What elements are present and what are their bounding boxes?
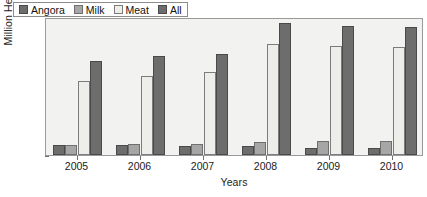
bar-milk-2010 [380,141,392,155]
bar-milk-2008 [254,142,266,155]
legend-label: Meat [126,4,149,16]
x-axis-tick-label: 2009 [298,160,360,172]
chart-figure: Million Head 00.51.01.52.02.53.03.54.0 2… [0,0,427,197]
bar-milk-2006 [128,144,140,155]
x-axis-tick-mark [392,156,393,160]
bar-all-2010 [405,27,417,155]
legend-item-milk: Milk [74,4,105,16]
bar-angora-2005 [53,145,65,155]
x-axis-tick-label: 2005 [46,160,108,172]
legend-label: All [170,4,182,16]
bar-angora-2009 [305,148,317,155]
legend-swatch-icon [158,5,167,14]
bar-angora-2010 [368,148,380,155]
x-axis-tick-mark [329,156,330,160]
bar-meat-2009 [330,46,342,155]
legend-item-all: All [158,4,182,16]
legend-label: Angora [31,4,65,16]
x-axis-title: Years [45,176,423,188]
legend-swatch-icon [74,5,83,14]
bar-all-2008 [279,23,291,155]
bar-all-2006 [153,56,165,155]
chart-legend: AngoraMilkMeatAll [13,2,188,17]
bar-angora-2006 [116,145,128,155]
x-axis-tick-label: 2007 [172,160,234,172]
bar-all-2009 [342,26,354,155]
bar-series-container [46,19,422,155]
bar-milk-2005 [65,145,77,155]
bar-all-2005 [90,61,102,155]
legend-item-meat: Meat [114,4,149,16]
bar-meat-2005 [78,81,90,155]
x-axis-tick-mark [77,156,78,160]
bar-angora-2008 [242,146,254,155]
bar-all-2007 [216,54,228,155]
x-axis-tick-mark [140,156,141,160]
x-axis-tick-mark [203,156,204,160]
x-axis-tick-label: 2008 [235,160,297,172]
bar-milk-2007 [191,144,203,155]
bar-angora-2007 [179,146,191,155]
legend-label: Milk [86,4,105,16]
plot-area [45,18,423,156]
x-axis-tick-mark [266,156,267,160]
bar-meat-2010 [393,47,405,155]
legend-item-angora: Angora [19,4,65,16]
bar-meat-2008 [267,44,279,155]
bar-milk-2009 [317,141,329,155]
x-axis-tick-label: 2006 [109,160,171,172]
legend-swatch-icon [114,5,123,14]
legend-swatch-icon [19,5,28,14]
y-axis-tick-mark [45,156,49,157]
bar-meat-2006 [141,76,153,155]
x-axis-tick-label: 2010 [361,160,423,172]
bar-meat-2007 [204,72,216,155]
